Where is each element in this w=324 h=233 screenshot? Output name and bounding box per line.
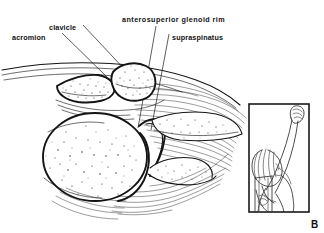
figure-container: acromion clavicle anterosuperior glenoid… <box>0 0 324 233</box>
label-clavicle: clavicle <box>49 23 76 32</box>
label-acromion: acromion <box>12 33 46 42</box>
humeral-head-bone <box>43 113 149 201</box>
label-anterosuperior-glenoid-rim: anterosuperior glenoid rim <box>122 15 225 24</box>
shoulder-anatomy-illustration: acromion clavicle anterosuperior glenoid… <box>0 0 324 233</box>
inset-frame <box>249 104 309 212</box>
clavicle-bone <box>111 63 155 100</box>
panel-letter: B <box>311 219 318 230</box>
label-supraspinatus: supraspinatus <box>172 33 223 42</box>
patient-positioning-inset <box>249 104 309 212</box>
